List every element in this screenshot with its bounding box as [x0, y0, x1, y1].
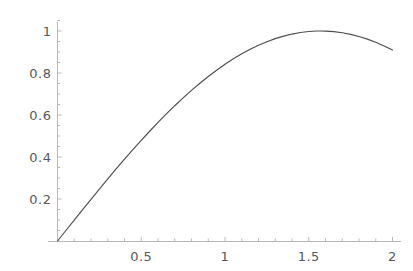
x-tick-label: 1.5 [298, 250, 320, 263]
y-axis-major-ticks [58, 31, 62, 199]
x-axis-major-ticks [141, 237, 392, 241]
x-tick-label: 1 [221, 250, 230, 263]
series-line-sin [58, 31, 393, 241]
x-tick-label: 0.5 [130, 250, 152, 263]
y-tick-label: 0.4 [29, 151, 51, 164]
x-axis-minor-ticks [58, 239, 376, 242]
plot-figure: 0.20.40.60.81 0.511.52 [0, 0, 413, 271]
y-tick-label: 0.2 [29, 193, 51, 206]
plot-canvas [0, 0, 413, 271]
y-tick-label: 0.8 [29, 67, 51, 80]
x-tick-label: 2 [388, 250, 397, 263]
y-tick-label: 0.6 [29, 109, 51, 122]
axes-group [48, 21, 401, 242]
data-series-group [58, 31, 393, 241]
y-tick-label: 1 [43, 25, 52, 38]
